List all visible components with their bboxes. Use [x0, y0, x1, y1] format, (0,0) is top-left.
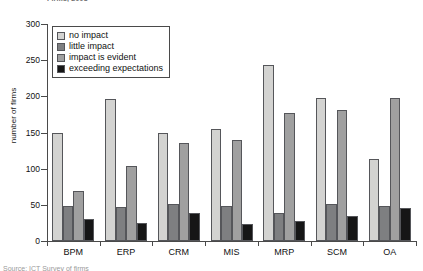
legend-swatch-icon — [57, 65, 65, 73]
y-axis-tick-label: 300 — [26, 19, 40, 29]
chart-legend: no impactlittle impactimpact is evidente… — [52, 26, 170, 78]
legend-item: little impact — [57, 41, 163, 52]
bar — [274, 213, 285, 241]
legend-swatch-icon — [57, 32, 65, 40]
x-axis-tick-mark — [100, 241, 101, 246]
x-axis-tick-label: SCM — [327, 247, 347, 257]
legend-item: no impact — [57, 30, 163, 41]
legend-swatch-icon — [57, 43, 65, 51]
bar — [326, 204, 337, 241]
bar — [232, 140, 243, 241]
bar — [390, 98, 401, 241]
x-axis-tick-mark — [258, 241, 259, 246]
bar — [369, 159, 380, 241]
bar — [316, 98, 327, 241]
bar — [337, 110, 348, 241]
x-axis-tick-mark — [152, 241, 153, 246]
y-axis-tick-mark — [41, 169, 47, 170]
legend-item-label: no impact — [69, 30, 108, 41]
y-axis-tick-mark — [41, 24, 47, 25]
x-axis-tick-mark — [47, 241, 48, 246]
bar — [63, 206, 74, 241]
title-fragment: Firms, 2008 — [47, 0, 88, 2]
chart-page: Firms, 2008 Source: ICT Survey of firms … — [0, 0, 423, 271]
bar — [211, 129, 222, 241]
bar — [242, 224, 253, 241]
bar — [105, 99, 116, 241]
y-axis-tick-mark — [41, 205, 47, 206]
x-axis-tick-label: MIS — [223, 247, 239, 257]
bar — [400, 208, 411, 241]
x-axis-tick-mark — [363, 241, 364, 246]
bar — [84, 219, 95, 241]
legend-item-label: little impact — [69, 41, 114, 52]
bar-group — [316, 24, 358, 241]
bar — [179, 143, 190, 241]
y-axis-tick-label: 50 — [31, 200, 40, 210]
bar — [137, 223, 148, 241]
bar-group — [211, 24, 253, 241]
legend-item-label: exceeding expectations — [69, 63, 163, 74]
bar — [347, 216, 358, 241]
bar — [379, 206, 390, 241]
bar-group — [369, 24, 411, 241]
bar — [295, 221, 306, 241]
y-axis-label: number of firms — [9, 77, 18, 155]
bar — [263, 65, 274, 241]
y-axis-tick-mark — [41, 60, 47, 61]
bar — [52, 133, 63, 242]
legend-item-label: impact is evident — [69, 52, 136, 63]
bar — [168, 204, 179, 241]
legend-swatch-icon — [57, 54, 65, 62]
y-axis-tick-label: 0 — [35, 236, 40, 246]
x-axis-tick-mark — [205, 241, 206, 246]
legend-item: exceeding expectations — [57, 63, 163, 74]
bar — [73, 191, 84, 241]
legend-item: impact is evident — [57, 52, 163, 63]
x-axis-tick-label: ERP — [117, 247, 136, 257]
y-axis-tick-label: 200 — [26, 91, 40, 101]
y-axis-tick-label: 150 — [26, 128, 40, 138]
bar — [158, 133, 169, 241]
bar-group — [263, 24, 305, 241]
x-axis-tick-label: MRP — [274, 247, 294, 257]
bar — [189, 213, 200, 241]
caption-fragment: Source: ICT Survey of firms — [3, 265, 89, 271]
bar — [116, 207, 127, 241]
x-axis-line — [47, 241, 417, 242]
x-axis-tick-label: OA — [383, 247, 396, 257]
bar — [126, 166, 137, 241]
x-axis-tick-mark — [416, 241, 417, 246]
y-axis-tick-mark — [41, 133, 47, 134]
x-axis-tick-label: CRM — [169, 247, 190, 257]
x-axis-tick-mark — [311, 241, 312, 246]
x-axis-tick-label: BPM — [64, 247, 84, 257]
y-axis-tick-label: 100 — [26, 164, 40, 174]
bar — [284, 113, 295, 241]
y-axis-tick-mark — [41, 96, 47, 97]
y-axis-tick-label: 250 — [26, 55, 40, 65]
bar — [221, 206, 232, 241]
